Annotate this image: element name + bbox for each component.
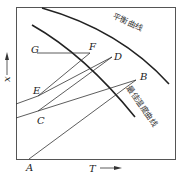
point-label-F: F: [88, 41, 97, 52]
x-axis-arrow-head-icon: [114, 166, 122, 170]
point-label-C: C: [37, 115, 45, 126]
path-E-left: [16, 96, 38, 104]
optimal-temperature-curve: [32, 25, 135, 117]
path-C-B: [38, 80, 136, 111]
point-label-D: D: [113, 51, 122, 62]
path-E-D: [38, 57, 112, 96]
equilibrium-curve-label: 平衡曲线: [111, 11, 144, 33]
equilibrium-curve: [42, 8, 169, 84]
point-label-A: A: [25, 162, 33, 173]
point-label-E: E: [32, 85, 41, 96]
reactor-operating-diagram: 平衡曲线 最佳温度曲线 A B C D E F G x T: [0, 0, 181, 174]
path-C-left: [16, 111, 38, 118]
y-axis-label: x: [1, 76, 12, 82]
x-axis-label: T: [89, 163, 97, 174]
y-axis-arrow-head-icon: [5, 52, 9, 60]
path-E-F: [38, 53, 90, 96]
point-label-B: B: [139, 71, 147, 82]
point-label-G: G: [31, 44, 39, 55]
optimal-temperature-curve-label: 最佳温度曲线: [124, 83, 160, 128]
